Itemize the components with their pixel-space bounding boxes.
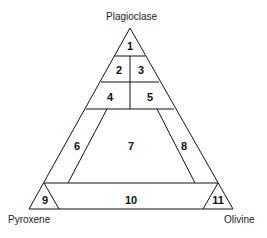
- field-label-9: 9: [42, 194, 48, 206]
- field-label-7: 7: [128, 140, 134, 152]
- outer-triangle: [29, 28, 233, 209]
- field-label-4: 4: [107, 91, 114, 103]
- ternary-diagram: 1 2 3 4 5 6 7 8 9 10 11: [0, 0, 267, 238]
- field-label-8: 8: [181, 140, 187, 152]
- field-label-1: 1: [127, 40, 133, 52]
- field-label-11: 11: [212, 194, 224, 206]
- field-label-6: 6: [74, 140, 80, 152]
- field-label-3: 3: [138, 64, 144, 76]
- field-label-10: 10: [125, 194, 137, 206]
- field-label-5: 5: [147, 91, 153, 103]
- divider-line: [157, 109, 195, 183]
- field-label-2: 2: [116, 64, 122, 76]
